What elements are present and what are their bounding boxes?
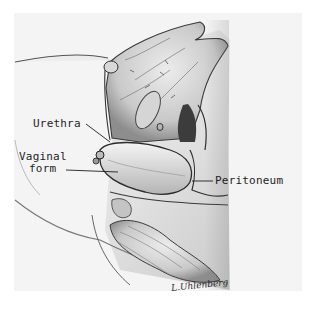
label-vaginal-form-line2: form [29, 163, 56, 174]
edge-shading [205, 20, 229, 290]
label-vaginal-form-line1: Vaginal [19, 151, 67, 162]
anatomical-illustration: Urethra Vaginal form Peritoneum L.Uhlenb… [0, 0, 312, 310]
urethra-leader [86, 124, 110, 142]
label-urethra: Urethra [33, 118, 81, 129]
label-peritoneum: Peritoneum [215, 175, 283, 186]
